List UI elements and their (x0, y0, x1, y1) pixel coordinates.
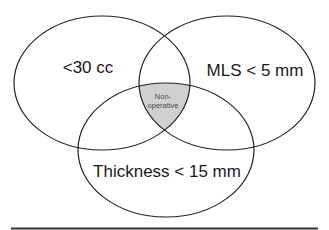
intersection-label-line1: Non- (155, 92, 172, 101)
intersection-label-line2: operative (148, 101, 179, 110)
set-label-mls: MLS < 5 mm (207, 61, 304, 80)
venn-diagram: <30 cc MLS < 5 mm Thickness < 15 mm Non-… (0, 0, 329, 230)
set-label-thickness: Thickness < 15 mm (93, 162, 241, 181)
set-label-volume: <30 cc (63, 58, 114, 77)
